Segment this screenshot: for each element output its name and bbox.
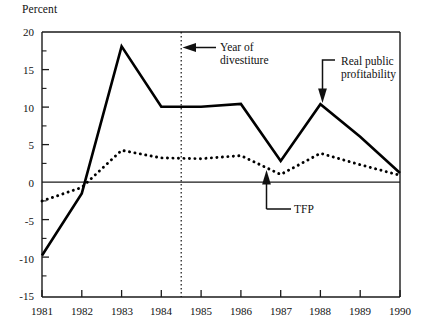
axis-frame (42, 32, 400, 297)
annotation-profitability-leader (318, 60, 335, 103)
series-real-public-profitability (42, 46, 400, 255)
tfp-arrow-head (262, 170, 271, 185)
annotation-tfp-leader (262, 170, 291, 209)
profitability-arrow-head (318, 89, 327, 104)
series-tfp (42, 150, 400, 201)
divestiture-arrow-head (183, 43, 197, 52)
chart-figure: Percent 20 15 10 5 0 -5 -10 -15 1981 198… (0, 0, 426, 333)
profitability-leader-line (323, 60, 336, 92)
tfp-leader-line (267, 176, 292, 209)
x-ticks (42, 290, 400, 297)
plot-area (0, 0, 426, 333)
annotation-divestiture-leader (183, 43, 217, 52)
